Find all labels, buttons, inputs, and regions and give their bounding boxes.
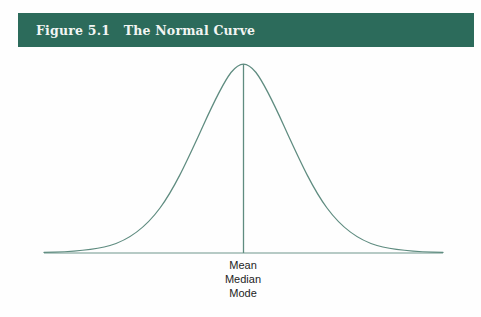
label-median: Median: [183, 272, 303, 286]
label-mean: Mean: [183, 258, 303, 272]
normal-curve-plot: [0, 47, 481, 257]
figure-page: Figure 5.1 The Normal Curve Mean Median …: [0, 0, 481, 317]
center-tendency-labels: Mean Median Mode: [183, 258, 303, 300]
figure-caption-band: Figure 5.1 The Normal Curve: [18, 13, 474, 47]
figure-caption-text: Figure 5.1 The Normal Curve: [36, 23, 255, 38]
normal-curve-svg: [0, 47, 481, 257]
label-mode: Mode: [183, 286, 303, 300]
